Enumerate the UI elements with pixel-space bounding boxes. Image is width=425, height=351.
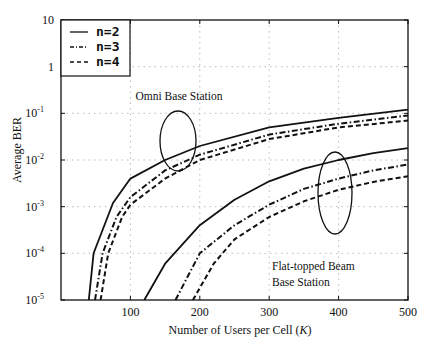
omni-ellipse <box>160 111 196 171</box>
legend-label: n=2 <box>96 24 119 39</box>
annotation-text: Flat-topped Beam <box>272 260 355 273</box>
series-line <box>89 110 408 300</box>
x-tick-label: 400 <box>330 305 348 319</box>
y-tick-label: 1 <box>48 60 54 74</box>
annotation-text: Omni Base Station <box>136 90 223 102</box>
y-tick-label: 10-5 <box>25 292 44 307</box>
x-tick-label: 100 <box>121 305 139 319</box>
series-line <box>95 116 408 301</box>
x-tick-label: 300 <box>260 305 278 319</box>
y-tick-label: 10-2 <box>25 152 44 167</box>
ber-chart: 100200300400500 10110-110-210-310-410-5 … <box>0 0 425 351</box>
x-tick-label: 200 <box>191 305 209 319</box>
y-tick-label: 10-4 <box>25 245 44 260</box>
y-tick-label: 10-1 <box>25 105 44 120</box>
y-tick-label: 10-3 <box>25 199 44 214</box>
group-ellipses <box>160 111 352 234</box>
legend: n=2n=3n=4 <box>61 20 130 76</box>
annotation-text: Base Station <box>272 276 330 288</box>
legend-label: n=4 <box>96 54 120 69</box>
legend-label: n=3 <box>96 39 119 54</box>
x-tick-label: 500 <box>399 305 417 319</box>
flat-ellipse <box>318 152 352 234</box>
x-axis-label: Number of Users per Cell (K) <box>169 323 312 337</box>
y-tick-label: 10 <box>42 13 54 27</box>
ber-curves <box>89 110 408 300</box>
y-axis-label: Average BER <box>10 117 24 183</box>
series-line <box>101 121 408 300</box>
